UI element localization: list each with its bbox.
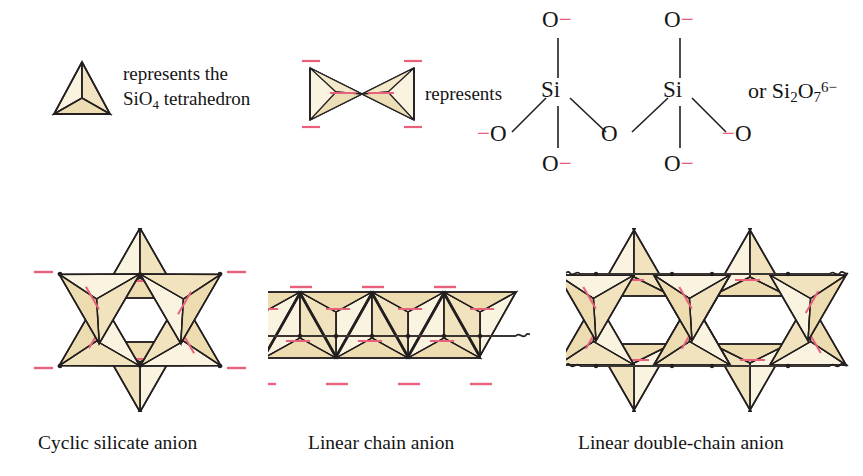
legend-line-1: represents the: [123, 62, 228, 85]
lewis-si-right: Si: [663, 76, 682, 104]
formula-o: O: [798, 78, 814, 103]
formula-si2o7: or Si2O76−: [748, 78, 837, 107]
lewis-o-bottom-left: O−: [542, 150, 572, 178]
lewis-o-side-right: −O: [722, 120, 752, 148]
atom-label-o: O: [542, 7, 559, 32]
formula-sub-7: 7: [814, 89, 821, 105]
formula-si: Si: [772, 78, 790, 103]
legend-sio4-suffix: tetrahedron: [159, 88, 250, 109]
caption-cyclic: Cyclic silicate anion: [38, 431, 197, 455]
atom-label-o: O: [664, 151, 681, 176]
charge-minus: −: [477, 121, 490, 146]
charge-minus: −: [681, 7, 694, 32]
lewis-o-bridge: O: [601, 120, 618, 148]
atom-label-o: O: [490, 121, 507, 146]
charge-minus: −: [722, 121, 735, 146]
charge-minus: −: [559, 7, 572, 32]
or-label: or: [748, 78, 766, 103]
tetrahedron-icon: [48, 58, 116, 120]
caption-double-chain: Linear double-chain anion: [578, 431, 784, 455]
cyclic-silicate-anion-structure: [34, 228, 246, 412]
formula-sub-2: 2: [790, 89, 797, 105]
charge-minus: −: [681, 151, 694, 176]
caption-linear-chain: Linear chain anion: [308, 431, 454, 455]
lewis-si-left: Si: [541, 76, 560, 104]
dc-end-top-left-squiggle: [566, 272, 580, 275]
lewis-o-side-left: −O: [477, 120, 507, 148]
atom-label-o: O: [735, 121, 752, 146]
silicate-structures-figure: represents the SiO4 tetrahedron represen…: [0, 0, 863, 476]
lewis-structure-si2o7: [480, 2, 740, 192]
formula-charge: 6−: [821, 79, 837, 95]
linear-double-chain-anion-structure: [566, 228, 856, 412]
double-tetrahedron-bowtie-icon: [300, 58, 424, 130]
lewis-o-top-right: O−: [664, 6, 694, 34]
lewis-o-top-left: O−: [542, 6, 572, 34]
charge-minus: −: [559, 151, 572, 176]
linear-chain-anion-structure: [268, 280, 530, 392]
chain-end-right-squiggle: [516, 334, 530, 337]
atom-label-o: O: [542, 151, 559, 176]
atom-label-o: O: [664, 7, 681, 32]
dc-end-top-right-squiggle: [830, 272, 848, 275]
legend-sio4-prefix: SiO: [123, 88, 153, 109]
lewis-o-bottom-right: O−: [664, 150, 694, 178]
legend-line-2: SiO4 tetrahedron: [123, 87, 250, 112]
